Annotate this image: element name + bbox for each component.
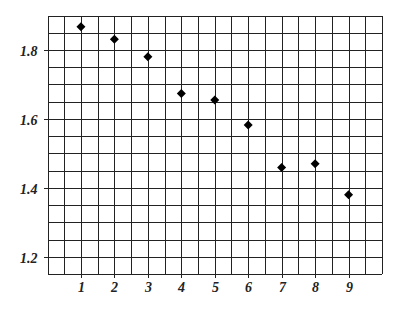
data-point xyxy=(143,52,152,61)
scatter-chart: 123456789 1.21.41.61.8 xyxy=(0,0,405,309)
data-points xyxy=(76,22,353,199)
data-point xyxy=(344,190,353,199)
grid xyxy=(48,16,383,275)
y-tick-label: 1.8 xyxy=(20,44,38,59)
data-point xyxy=(177,89,186,98)
x-tick-label: 5 xyxy=(212,280,219,295)
x-tick-label: 1 xyxy=(78,280,85,295)
data-point xyxy=(244,121,253,130)
x-tick-label: 6 xyxy=(245,280,252,295)
data-point xyxy=(311,159,320,168)
y-tick-labels: 1.21.41.61.8 xyxy=(20,44,38,266)
x-tick-label: 8 xyxy=(312,280,319,295)
x-tick-label: 7 xyxy=(279,280,287,295)
data-point xyxy=(110,35,119,44)
x-tick-label: 2 xyxy=(110,280,118,295)
x-tick-label: 3 xyxy=(144,280,152,295)
data-point xyxy=(277,163,286,172)
y-tick-label: 1.6 xyxy=(20,113,38,128)
x-tick-label: 4 xyxy=(177,280,185,295)
y-tick-label: 1.4 xyxy=(20,182,38,197)
data-point xyxy=(76,22,85,31)
x-tick-label: 9 xyxy=(346,280,353,295)
x-tick-labels: 123456789 xyxy=(78,280,353,295)
y-tick-label: 1.2 xyxy=(20,251,38,266)
data-point xyxy=(210,95,219,104)
